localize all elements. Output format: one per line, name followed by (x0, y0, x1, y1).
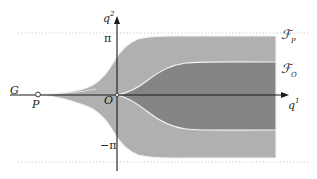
tick-label-minus-pi: −π (100, 140, 116, 151)
point-p-marker (36, 92, 41, 97)
axis-label-q2-superscript: 2 (110, 10, 114, 18)
point-label-p: P (32, 99, 39, 110)
region-label-fo-letter: ℱ (281, 61, 291, 76)
origin-point (115, 93, 118, 96)
figure-canvas: q2 q1 π −π O G P ℱP ℱO (0, 0, 317, 179)
region-label-fp: ℱP (281, 28, 296, 44)
axis-q1-arrowhead (281, 92, 289, 98)
axis-label-q2-base: q (103, 12, 110, 25)
origin-label: O (104, 95, 113, 106)
curve-label-g: G (10, 85, 19, 96)
tick-label-pi: π (104, 33, 111, 44)
region-label-fo: ℱO (281, 62, 297, 78)
axis-label-q1-superscript: 1 (295, 97, 299, 105)
region-label-fo-subscript: O (291, 71, 297, 79)
axis-label-q2: q2 (103, 12, 115, 24)
region-label-fp-subscript: P (291, 37, 296, 45)
figure-svg (0, 0, 317, 179)
region-label-fp-letter: ℱ (281, 27, 291, 42)
axis-label-q1: q1 (288, 99, 300, 111)
axis-label-q1-base: q (288, 99, 295, 112)
